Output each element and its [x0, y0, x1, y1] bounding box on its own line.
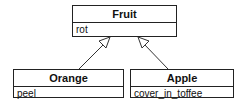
class-name: Orange [14, 70, 123, 87]
class-attribute: cover_in_toffee [131, 87, 233, 100]
class-name: Apple [131, 70, 233, 87]
class-orange[interactable]: Orange peel [13, 69, 124, 98]
class-attribute: peel [14, 87, 123, 100]
generalization-arrowhead-icon [99, 37, 110, 48]
class-name: Fruit [73, 6, 176, 23]
class-fruit[interactable]: Fruit rot [72, 5, 177, 37]
class-attribute: rot [73, 23, 176, 36]
class-apple[interactable]: Apple cover_in_toffee [130, 69, 234, 98]
orange-to-fruit-line [79, 44, 104, 69]
generalization-arrowhead-icon [138, 37, 149, 48]
apple-to-fruit-line [144, 44, 168, 69]
